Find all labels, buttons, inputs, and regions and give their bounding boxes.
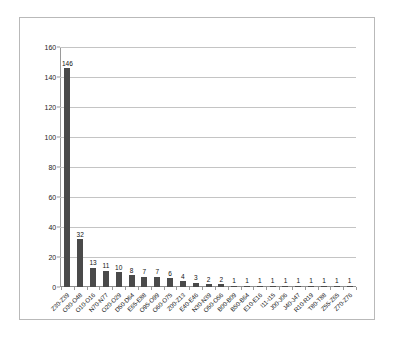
y-tick-label: 120 bbox=[45, 104, 56, 111]
bar-value-label: 7 bbox=[155, 269, 159, 276]
bar-value-label: 11 bbox=[103, 263, 110, 270]
y-tick-mark bbox=[57, 227, 60, 228]
bar-slot: 7 bbox=[138, 47, 151, 287]
y-tick-mark bbox=[57, 287, 60, 288]
bar-slot: 7 bbox=[151, 47, 164, 287]
bar-value-label: 8 bbox=[130, 268, 134, 275]
bar-slot: 1 bbox=[228, 47, 241, 287]
y-tick-label: 160 bbox=[45, 44, 56, 51]
chart-page: 020406080100120140160 146321311108776432… bbox=[0, 0, 397, 340]
y-tick-mark bbox=[57, 47, 60, 48]
x-axis-labels: Z30-Z39O30-O48O10-O16N70-N77O20-O29D50-D… bbox=[61, 292, 356, 340]
bar-value-label: 7 bbox=[143, 269, 147, 276]
bar-value-label: 13 bbox=[89, 260, 96, 267]
bar-slot: 11 bbox=[99, 47, 112, 287]
bar-slot: 146 bbox=[61, 47, 74, 287]
bar-slot: 1 bbox=[279, 47, 292, 287]
bar-slot: 32 bbox=[74, 47, 87, 287]
bar[interactable]: 146 bbox=[64, 68, 70, 287]
bar-slot: 3 bbox=[189, 47, 202, 287]
bar-value-label: 32 bbox=[77, 232, 84, 239]
bar-slot: 4 bbox=[176, 47, 189, 287]
y-tick-label: 40 bbox=[48, 224, 56, 231]
y-tick-mark bbox=[57, 137, 60, 138]
bar-slot: 1 bbox=[266, 47, 279, 287]
bar-slot: 2 bbox=[215, 47, 228, 287]
bar-series: 14632131110877643221111111111 bbox=[61, 47, 356, 287]
y-tick-mark bbox=[57, 77, 60, 78]
bar-slot: 8 bbox=[125, 47, 138, 287]
bar-slot: 1 bbox=[292, 47, 305, 287]
y-tick-mark bbox=[57, 197, 60, 198]
y-tick-label: 60 bbox=[48, 194, 56, 201]
bar-slot: 1 bbox=[305, 47, 318, 287]
bar-slot: 2 bbox=[202, 47, 215, 287]
y-tick-label: 80 bbox=[48, 164, 56, 171]
bar-value-label: 146 bbox=[62, 61, 73, 68]
figure-frame: 020406080100120140160 146321311108776432… bbox=[19, 17, 375, 320]
y-tick-mark bbox=[57, 167, 60, 168]
y-tick-label: 20 bbox=[48, 254, 56, 261]
plot-area: 020406080100120140160 146321311108776432… bbox=[60, 47, 356, 287]
y-tick-mark bbox=[57, 257, 60, 258]
x-tick-mark bbox=[61, 287, 62, 290]
y-tick-mark bbox=[57, 107, 60, 108]
bar-slot: 1 bbox=[318, 47, 331, 287]
bar-slot: 1 bbox=[253, 47, 266, 287]
bar-slot: 13 bbox=[87, 47, 100, 287]
bar-slot: 10 bbox=[112, 47, 125, 287]
bar-slot: 6 bbox=[164, 47, 177, 287]
bar-value-label: 10 bbox=[115, 265, 122, 272]
y-tick-label: 100 bbox=[45, 134, 56, 141]
bar-slot: 1 bbox=[330, 47, 343, 287]
bar-slot: 1 bbox=[343, 47, 356, 287]
y-tick-label: 140 bbox=[45, 74, 56, 81]
bar-slot: 1 bbox=[241, 47, 254, 287]
y-tick-label: 0 bbox=[52, 284, 56, 291]
x-label-slot: Z70-Z76 bbox=[343, 292, 356, 340]
